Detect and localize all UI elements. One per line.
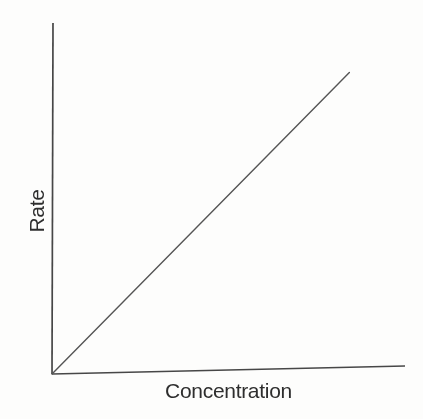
rate-line (52, 72, 349, 374)
y-axis-line (52, 23, 53, 374)
x-axis-line (52, 366, 405, 374)
rate-vs-concentration-figure: Rate Concentration (0, 0, 423, 419)
plot-canvas (0, 0, 423, 419)
x-axis-label: Concentration (52, 379, 405, 403)
y-axis-label: Rate (25, 189, 49, 232)
